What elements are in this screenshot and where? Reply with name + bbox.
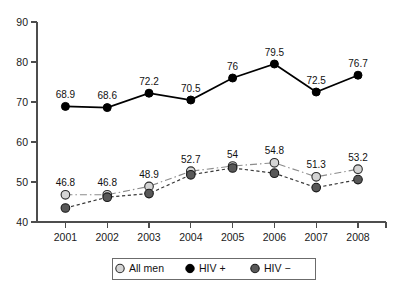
data-point-hiv-negative-2003: [145, 189, 154, 198]
data-point-all-men-2006: [270, 159, 279, 168]
data-point-hiv-negative-2002: [103, 193, 112, 202]
y-tick-label: 90: [16, 16, 28, 28]
value-label-all-men-2007: 51.3: [306, 159, 326, 170]
value-label-hiv-positive-2004: 70.5: [181, 83, 201, 94]
data-point-hiv-positive-2008: [354, 71, 362, 79]
y-tick-label: 50: [16, 176, 28, 188]
value-label-all-men-2005: 54: [227, 149, 239, 160]
legend-marker-hiv-negative: [251, 264, 259, 272]
data-point-hiv-positive-2006: [270, 60, 278, 68]
data-point-hiv-negative-2005: [228, 164, 237, 173]
y-tick-label: 80: [16, 56, 28, 68]
legend-marker-hiv-positive: [186, 264, 194, 272]
value-label-all-men-2001: 46.8: [56, 177, 76, 188]
value-label-all-men-2002: 46.8: [97, 177, 117, 188]
value-label-hiv-positive-2002: 68.6: [97, 90, 117, 101]
legend-label-all-men: All men: [129, 262, 164, 274]
y-tick-label: 60: [16, 136, 28, 148]
x-tick-label: 2007: [305, 231, 329, 243]
data-point-hiv-negative-2007: [312, 183, 321, 192]
value-label-all-men-2003: 48.9: [139, 169, 159, 180]
data-point-hiv-positive-2004: [187, 96, 195, 104]
y-tick-label: 70: [16, 96, 28, 108]
value-label-hiv-positive-2007: 72.5: [306, 75, 326, 86]
x-tick-label: 2003: [137, 231, 161, 243]
data-point-hiv-negative-2008: [354, 175, 363, 184]
data-point-all-men-2001: [61, 191, 70, 200]
x-tick-label: 2005: [221, 231, 245, 243]
x-tick-label: 2002: [96, 231, 120, 243]
x-tick-label: 2006: [263, 231, 287, 243]
chart-legend: All menHIV +HIV −: [112, 258, 315, 279]
x-tick-label: 2001: [54, 231, 78, 243]
value-label-all-men-2008: 53.2: [348, 152, 368, 163]
data-point-all-men-2007: [312, 173, 321, 182]
data-point-hiv-negative-2006: [270, 169, 279, 178]
y-tick-group: 405060708090: [16, 16, 37, 228]
value-label-hiv-positive-2008: 76.7: [348, 58, 368, 69]
value-label-hiv-positive-2006: 79.5: [265, 47, 285, 58]
legend-marker-all-men: [116, 264, 124, 272]
value-label-hiv-positive-2001: 68.9: [56, 89, 76, 100]
value-label-all-men-2006: 54.8: [265, 145, 285, 156]
x-axis: 20012002200320042005200620072008: [37, 222, 386, 243]
x-tick-label: 2004: [179, 231, 203, 243]
x-tick-label: 2008: [346, 231, 370, 243]
legend-label-hiv-positive: HIV +: [199, 262, 226, 274]
data-point-hiv-negative-2004: [187, 171, 196, 180]
legend-label-hiv-negative: HIV −: [264, 262, 291, 274]
value-labels-group: 46.846.848.952.75454.851.353.268.968.672…: [56, 47, 368, 189]
y-axis: 405060708090: [16, 16, 37, 228]
data-point-hiv-positive-2005: [229, 74, 237, 82]
value-label-hiv-positive-2003: 72.2: [139, 76, 159, 87]
data-point-hiv-positive-2001: [61, 102, 69, 110]
value-label-all-men-2004: 52.7: [181, 154, 201, 165]
data-point-hiv-positive-2007: [312, 88, 320, 96]
data-point-hiv-positive-2002: [103, 104, 111, 112]
data-point-hiv-positive-2003: [145, 89, 153, 97]
data-point-all-men-2008: [354, 165, 363, 174]
value-label-hiv-positive-2005: 76: [227, 61, 239, 72]
chart-canvas: 405060708090 200120022003200420052006200…: [0, 0, 403, 287]
line-chart: 405060708090 200120022003200420052006200…: [0, 0, 403, 287]
data-point-hiv-negative-2001: [61, 204, 70, 213]
x-tick-group: 20012002200320042005200620072008: [54, 222, 386, 243]
y-tick-label: 40: [16, 216, 28, 228]
